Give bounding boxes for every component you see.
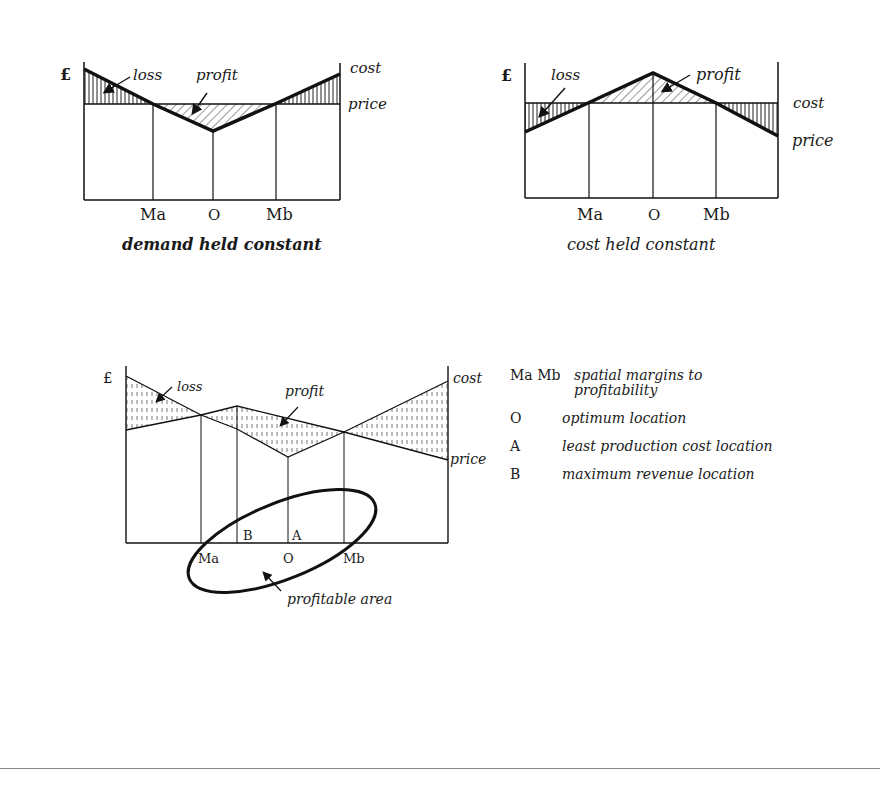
profit-area xyxy=(153,104,275,131)
legend-item-margins: Ma Mb spatial margins to profitability xyxy=(510,368,870,398)
panel-caption: demand held constant xyxy=(122,235,322,254)
cost-label: cost xyxy=(350,59,382,77)
loss-area-right xyxy=(344,381,448,460)
profitable-area-label: profitable area xyxy=(287,591,392,607)
legend-key: Ma Mb xyxy=(510,368,574,398)
legend-text: spatial margins to profitability xyxy=(574,368,764,398)
panel-cost-held-constant: £ loss profit cost price Ma O Mb cost he… xyxy=(501,62,833,254)
tick-mb: Mb xyxy=(266,205,293,224)
profit-label: profit xyxy=(196,66,239,84)
tick-o: O xyxy=(208,206,220,224)
legend: Ma Mb spatial margins to profitability O… xyxy=(510,368,870,495)
loss-label: loss xyxy=(551,66,581,84)
panel-combined: £ loss profit cost price B A Ma O Mb pro… xyxy=(103,366,486,614)
profit-label: profit xyxy=(696,65,741,84)
profit-area xyxy=(201,406,344,457)
loss-label: loss xyxy=(133,66,163,84)
tick-ma: Ma xyxy=(577,205,603,224)
point-b-label: B xyxy=(243,528,253,543)
tick-ma: Ma xyxy=(140,205,166,224)
tick-mb: Mb xyxy=(703,205,730,224)
y-axis-label: £ xyxy=(60,65,71,84)
panel-caption: cost held constant xyxy=(567,235,716,254)
y-axis-label: £ xyxy=(501,66,512,85)
legend-key: O xyxy=(510,411,562,426)
legend-key: B xyxy=(510,467,562,482)
cost-label: cost xyxy=(453,370,482,386)
legend-text: optimum location xyxy=(562,411,870,426)
legend-text: least production cost location xyxy=(562,439,870,454)
page-bottom-rule xyxy=(0,768,880,769)
legend-item-optimum: O optimum location xyxy=(510,411,870,426)
tick-ma: Ma xyxy=(198,551,219,566)
panel-demand-held-constant: £ loss profit cost price Ma O Mb demand … xyxy=(60,59,387,254)
cost-label: cost xyxy=(793,94,825,112)
price-label: price xyxy=(450,451,486,467)
tick-o: O xyxy=(648,206,660,224)
price-label: price xyxy=(348,95,387,113)
legend-item-least-cost: A least production cost location xyxy=(510,439,870,454)
legend-item-max-revenue: B maximum revenue location xyxy=(510,467,870,482)
tick-mb: Mb xyxy=(343,551,365,566)
legend-text: maximum revenue location xyxy=(562,467,870,482)
loss-label: loss xyxy=(177,379,203,394)
profit-label: profit xyxy=(285,383,324,399)
point-a-label: A xyxy=(291,528,302,543)
price-label: price xyxy=(792,131,833,150)
tick-o: O xyxy=(283,551,294,566)
y-axis-label: £ xyxy=(103,369,113,387)
legend-key: A xyxy=(510,439,562,454)
